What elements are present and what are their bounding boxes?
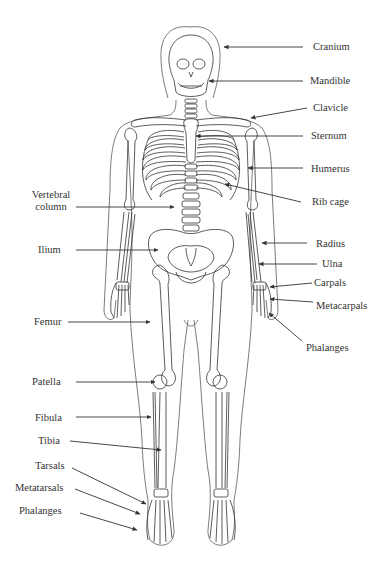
label-radius: Radius bbox=[316, 238, 345, 250]
label-cranium: Cranium bbox=[313, 41, 350, 53]
lower-leg-bones bbox=[153, 392, 229, 488]
label-vertebral-column-line1: Vertebral bbox=[32, 189, 70, 200]
feet bbox=[147, 489, 235, 544]
label-phalanges-foot: Phalanges bbox=[19, 505, 62, 517]
pelvis bbox=[148, 229, 233, 283]
patellas bbox=[153, 375, 227, 389]
skull bbox=[169, 35, 213, 97]
label-tibia: Tibia bbox=[38, 435, 60, 447]
label-mandible: Mandible bbox=[310, 75, 350, 87]
label-metatarsals: Metatarsals bbox=[15, 482, 63, 494]
label-ulna: Ulna bbox=[322, 258, 342, 270]
label-patella: Patella bbox=[32, 376, 61, 388]
label-vertebral-column: Vertebral column bbox=[26, 189, 76, 213]
ribs bbox=[142, 130, 239, 200]
label-humerus: Humerus bbox=[311, 163, 350, 175]
skeleton-diagram: Cranium Mandible Clavicle Sternum Humeru… bbox=[0, 0, 383, 566]
label-vertebral-column-line2: column bbox=[35, 201, 67, 212]
label-phalanges-hand: Phalanges bbox=[306, 342, 349, 354]
hands bbox=[111, 282, 272, 318]
label-rib-cage: Rib cage bbox=[312, 196, 349, 208]
label-metacarpals: Metacarpals bbox=[316, 300, 367, 312]
label-sternum: Sternum bbox=[311, 130, 347, 142]
sternum bbox=[184, 119, 198, 163]
label-ilium: Ilium bbox=[38, 244, 61, 256]
label-carpals: Carpals bbox=[314, 277, 346, 289]
body-outline bbox=[104, 27, 278, 546]
label-tarsals: Tarsals bbox=[35, 460, 65, 472]
cervical-spine bbox=[185, 99, 197, 118]
label-clavicle: Clavicle bbox=[313, 102, 348, 114]
label-fibula: Fibula bbox=[35, 412, 62, 424]
spine bbox=[182, 164, 200, 231]
label-femur: Femur bbox=[34, 316, 61, 328]
